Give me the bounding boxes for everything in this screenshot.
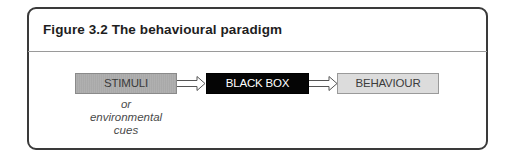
arrow-right-icon — [308, 75, 338, 92]
stimuli-caption: or environmental cues — [75, 98, 177, 137]
black-box: BLACK BOX — [206, 73, 309, 94]
caption-line: environmental — [75, 111, 177, 124]
title-divider — [28, 51, 487, 52]
caption-line: cues — [75, 124, 177, 137]
arrow-right-icon — [176, 75, 206, 92]
stimuli-box: STIMULI — [75, 73, 177, 94]
caption-line: or — [75, 98, 177, 111]
behaviour-box: BEHAVIOUR — [337, 73, 439, 94]
figure-label: Figure 3.2 — [43, 22, 108, 37]
figure-title: Figure 3.2 The behavioural paradigm — [43, 22, 282, 37]
figure-title-text: The behavioural paradigm — [112, 22, 282, 37]
